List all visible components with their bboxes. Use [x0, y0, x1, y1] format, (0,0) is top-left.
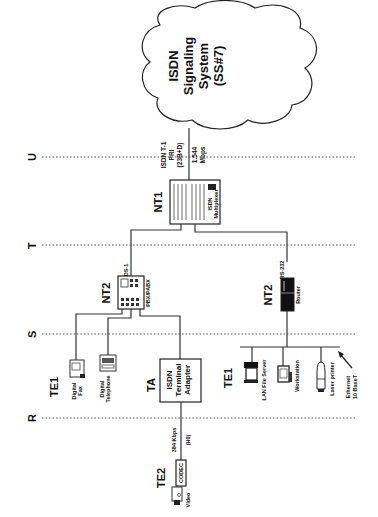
pbx-link-label: DS-1	[123, 264, 129, 277]
cloud-line-3: System	[196, 43, 211, 89]
ethernet-label-line-2: 10 BaseT	[352, 374, 358, 399]
isdn-terminal-adapter: ISDN Terminal Adapter	[160, 359, 201, 402]
fax-label-line-2: Fax	[77, 385, 83, 395]
cloud-line-4: (SS#7)	[211, 46, 226, 86]
pri-label-line-3: (23B+D)	[176, 143, 184, 168]
reference-label-u: U	[26, 153, 38, 161]
codec-label: CODEC	[178, 463, 184, 483]
nt1-label: NT1	[152, 192, 164, 213]
pri-rate-value: 1.544	[191, 146, 198, 163]
pbx-device-label: PBX/PABX	[145, 279, 151, 307]
codec-box: CODEC	[176, 460, 186, 486]
nt2-pbx-device	[118, 276, 144, 309]
ethernet-arrow-icon	[338, 351, 352, 368]
nt2-pbx-label: NT2	[100, 283, 112, 304]
telephone-label-line-2: Telephone	[105, 375, 111, 402]
laser-printer-icon	[317, 362, 325, 392]
isdn-reference-diagram: U T S R ISDN Signaling System (SS#7) ISD…	[0, 0, 378, 517]
router-link-label: RS-232	[279, 261, 285, 280]
nt2-router-label: NT2	[262, 285, 274, 306]
cloud-line-2: Signaling	[181, 37, 196, 96]
ethernet-label-line-1: Ethernet	[345, 376, 351, 398]
lan-file-server-icon	[244, 362, 258, 383]
pbx-to-phone-wire	[108, 309, 131, 355]
pri-rate-unit: Mbps	[199, 146, 207, 163]
video-label: Video	[185, 492, 191, 508]
codec-rate-label: 384 Kbps	[171, 428, 177, 452]
isdn-signaling-cloud: ISDN Signaling System (SS#7)	[142, 1, 316, 130]
nt1-to-router-wire	[195, 224, 287, 262]
cloud-line-1: ISDN	[166, 50, 181, 81]
ta-line-1: ISDN	[165, 370, 174, 389]
lan-server-label: LAN File Server	[261, 359, 267, 401]
ta-line-2: Terminal	[174, 364, 183, 397]
printer-label: Laser printer	[329, 361, 335, 395]
ta-line-3: Adapter	[183, 365, 192, 395]
pbx-to-ta-wire	[140, 309, 180, 362]
nt2-router-device	[281, 278, 294, 311]
pri-label-line-1: ISDN T-1	[160, 141, 167, 168]
pri-label-line-2: PRI	[168, 149, 175, 160]
te1-phones-label: TE1	[48, 377, 60, 397]
te1-lan-label: TE1	[222, 368, 234, 388]
workstation-icon	[278, 366, 292, 382]
reference-label-s: S	[26, 331, 38, 338]
ta-label: TA	[145, 378, 157, 392]
router-device-label: Router	[295, 285, 301, 304]
digital-fax-icon	[70, 360, 85, 378]
workstation-label: Workstation	[294, 360, 300, 392]
nt1-device-line-2: Multiplexer	[213, 189, 219, 219]
te2-label: TE2	[155, 468, 167, 488]
digital-telephone-icon	[100, 355, 116, 371]
video-camera-icon	[172, 487, 182, 505]
nt1-to-pbx-wire	[131, 224, 181, 258]
reference-label-r: R	[26, 414, 38, 422]
reference-label-t: T	[26, 242, 38, 249]
nt1-isdn-multiplexer: ISDN Multiplexer	[170, 180, 220, 224]
codec-channel-label: (H0)	[185, 434, 191, 445]
